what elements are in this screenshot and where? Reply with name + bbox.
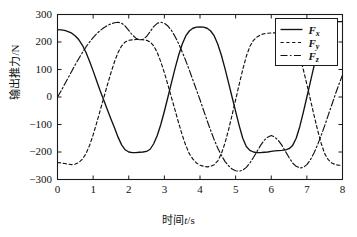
legend-frame — [276, 19, 338, 66]
x-tick-label: 4 — [185, 183, 215, 195]
x-tick-label: 8 — [328, 183, 357, 195]
x-axis-label: 时间t/s — [0, 211, 357, 227]
chart-figure: FxFyFz 3002001000−100−200−300012345678 输… — [0, 0, 357, 237]
y-tick-label: −200 — [8, 145, 52, 157]
x-tick-label: 7 — [292, 183, 322, 195]
x-tick-label: 3 — [149, 183, 179, 195]
x-tick-label: 5 — [221, 183, 251, 195]
x-tick-label: 6 — [256, 183, 286, 195]
y-axis-label: 输出推力/N — [6, 12, 22, 132]
plot-canvas: FxFyFz — [0, 0, 357, 237]
legend-box: FxFyFz — [276, 19, 338, 66]
x-tick-label: 1 — [78, 183, 108, 195]
x-tick-label: 2 — [114, 183, 144, 195]
x-tick-label: 0 — [43, 183, 73, 195]
x-axis-label-text: 时间t/s — [162, 214, 194, 226]
